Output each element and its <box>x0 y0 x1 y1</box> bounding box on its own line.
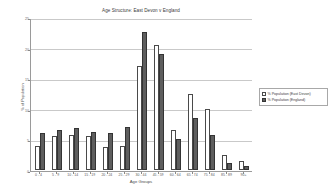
y-axis-tick-mark <box>28 141 30 142</box>
y-axis-tick-mark <box>28 111 30 112</box>
bar-group <box>32 19 49 170</box>
bar <box>210 135 215 170</box>
x-axis-tick-mark <box>226 172 227 174</box>
bar <box>108 133 113 170</box>
legend-swatch <box>262 92 266 96</box>
chart-title: Age Structure: East Devon v England <box>30 8 252 14</box>
bar <box>159 54 164 170</box>
x-axis-tick-mark <box>192 172 193 174</box>
bar <box>125 127 130 170</box>
x-axis-tick-mark <box>209 172 210 174</box>
x-axis-tick-mark <box>124 172 125 174</box>
bar-group <box>117 19 134 170</box>
bar <box>227 163 232 170</box>
x-axis-tick-mark <box>175 172 176 174</box>
bar <box>176 139 181 170</box>
bar-group <box>167 19 184 170</box>
x-axis-tick-mark <box>158 172 159 174</box>
x-axis-tick-mark <box>141 172 142 174</box>
y-axis-title: % of Population <box>20 83 25 110</box>
y-axis-tick-mark <box>28 50 30 51</box>
x-axis-tick-mark <box>73 172 74 174</box>
bar <box>74 128 79 170</box>
legend-label: % Population (East Devon) <box>268 92 311 97</box>
bar-group <box>83 19 100 170</box>
legend-item: % Population (England) <box>262 97 325 103</box>
bar <box>142 32 147 170</box>
bar <box>244 166 249 170</box>
bar-chart-figure: Age Structure: East Devon v England % of… <box>0 0 332 194</box>
x-axis-tick-mark <box>107 172 108 174</box>
x-axis-tick-mark <box>243 172 244 174</box>
bar-group <box>66 19 83 170</box>
bar-group <box>235 19 252 170</box>
bar-group <box>150 19 167 170</box>
bar-group <box>100 19 117 170</box>
bar <box>40 133 45 170</box>
y-axis-tick-mark <box>28 80 30 81</box>
bar <box>193 118 198 170</box>
x-axis-title: Age Groups <box>30 179 252 185</box>
chart-legend: % Population (East Devon)% Population (E… <box>259 88 328 106</box>
bar <box>57 130 62 170</box>
bar-group <box>201 19 218 170</box>
legend-label: % Population (England) <box>268 98 306 103</box>
legend-swatch <box>262 98 266 102</box>
x-axis-tick-mark <box>90 172 91 174</box>
bar-group <box>184 19 201 170</box>
bars-layer <box>32 19 252 170</box>
x-axis-tick-mark <box>56 172 57 174</box>
y-axis-tick-mark <box>28 19 30 20</box>
bar-group <box>134 19 151 170</box>
plot-area <box>30 19 252 172</box>
bar-group <box>49 19 66 170</box>
bar-group <box>218 19 235 170</box>
bar <box>91 132 96 170</box>
x-axis-tick-mark <box>39 172 40 174</box>
